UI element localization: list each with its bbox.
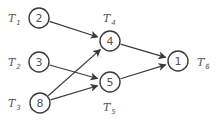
- edge-t3-to-t4: [48, 50, 100, 96]
- edge-t5-to-t6: [121, 65, 166, 79]
- node-weight: 4: [107, 35, 114, 48]
- edge-t2-to-t5: [50, 65, 98, 78]
- edge-t4-to-t6: [121, 44, 166, 57]
- task-graph: 2T13T28T34T45T51T6: [0, 0, 220, 120]
- task-label: T2: [8, 56, 21, 71]
- node-t3: 8T3: [8, 93, 50, 113]
- node-weight: 8: [37, 97, 44, 110]
- node-t6: 1T6: [168, 51, 210, 71]
- task-label: T6: [197, 56, 210, 71]
- edge-t1-to-t4: [49, 21, 97, 37]
- node-t5: 5T5: [100, 72, 120, 116]
- node-weight: 1: [175, 55, 182, 68]
- nodes-layer: 2T13T28T34T45T51T6: [8, 8, 210, 116]
- node-t4: 4T4: [100, 12, 120, 51]
- node-weight: 5: [107, 76, 114, 89]
- task-label: T3: [8, 97, 21, 112]
- node-weight: 2: [36, 12, 43, 25]
- task-label: T5: [103, 101, 116, 116]
- node-t2: 3T2: [8, 52, 49, 72]
- node-weight: 3: [36, 56, 43, 69]
- task-label: T4: [103, 12, 116, 27]
- node-t1: 2T1: [8, 8, 49, 28]
- task-label: T1: [8, 12, 21, 27]
